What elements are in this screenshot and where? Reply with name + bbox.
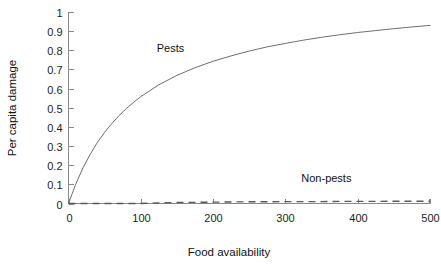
x-ticklabel-1: 100 xyxy=(132,212,150,224)
x-ticklabel-4: 400 xyxy=(349,212,367,224)
y-ticklabel-9: 0.9 xyxy=(47,26,62,38)
y-ticklabel-5: 0.5 xyxy=(47,103,62,115)
chart-figure: 00.10.20.30.40.50.60.70.80.91 0100200300… xyxy=(0,0,441,266)
damage-vs-food-chart: 00.10.20.30.40.50.60.70.80.91 0100200300… xyxy=(0,0,441,266)
x-ticklabel-group: 0100200300400500 xyxy=(66,212,439,224)
x-ticklabel-0: 0 xyxy=(66,212,72,224)
y-tick-group xyxy=(69,13,74,205)
series-annotation-pests: Pests xyxy=(157,42,185,54)
y-ticklabel-3: 0.3 xyxy=(47,141,62,153)
x-ticklabel-5: 500 xyxy=(421,212,439,224)
x-ticklabel-3: 300 xyxy=(276,212,294,224)
x-axis-title: Food availability xyxy=(188,246,271,258)
y-ticklabel-0: 0 xyxy=(56,199,62,211)
series-line-pests xyxy=(69,25,431,203)
y-ticklabel-6: 0.6 xyxy=(47,84,62,96)
y-ticklabel-2: 0.2 xyxy=(47,160,62,172)
y-ticklabel-8: 0.8 xyxy=(47,45,62,57)
y-axis-title: Per capita damage xyxy=(6,60,18,157)
y-ticklabel-group: 00.10.20.30.40.50.60.70.80.91 xyxy=(47,7,62,211)
y-ticklabel-10: 1 xyxy=(56,7,62,19)
x-ticklabel-2: 200 xyxy=(204,212,222,224)
y-ticklabel-7: 0.7 xyxy=(47,64,62,76)
series-annotation-non-pests: Non-pests xyxy=(301,172,352,184)
y-ticklabel-4: 0.4 xyxy=(47,122,62,134)
y-ticklabel-1: 0.1 xyxy=(47,179,62,191)
x-tick-group xyxy=(70,199,431,204)
